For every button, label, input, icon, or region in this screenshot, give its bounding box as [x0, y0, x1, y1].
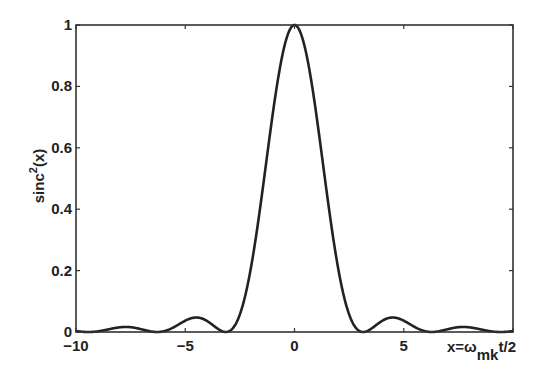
- y-tick-label: 0.6: [51, 139, 72, 156]
- x-tick-label: 5: [400, 337, 408, 354]
- y-tick-labels: 00.20.40.60.81: [51, 16, 73, 340]
- axis-ticks: [76, 25, 513, 332]
- y-tick-label: 0.2: [51, 262, 72, 279]
- x-tick-label: −5: [177, 337, 194, 354]
- y-tick-label: 0.8: [51, 77, 72, 94]
- x-tick-labels: −10−505: [63, 337, 408, 354]
- x-axis-label-main: x=ω: [447, 338, 477, 355]
- x-axis-label-tail: t/2: [498, 338, 516, 355]
- x-axis-label: x=ωmkt/2: [447, 338, 516, 363]
- y-tick-label: 0: [64, 323, 72, 340]
- x-tick-label: 0: [290, 337, 298, 354]
- x-axis-label-sub: mk: [477, 346, 499, 363]
- y-tick-label: 1: [64, 16, 72, 33]
- y-axis-label: sinc2(x): [27, 149, 47, 203]
- sinc-squared-chart: −10−505 00.20.40.60.81 sinc2(x) x=ωmkt/2: [0, 0, 543, 376]
- y-axis-label-main: sinc: [30, 173, 47, 203]
- y-axis-label-tail: (x): [30, 149, 47, 167]
- y-tick-label: 0.4: [51, 200, 73, 217]
- sinc-squared-curve: [76, 25, 513, 332]
- axes-frame: [76, 25, 513, 332]
